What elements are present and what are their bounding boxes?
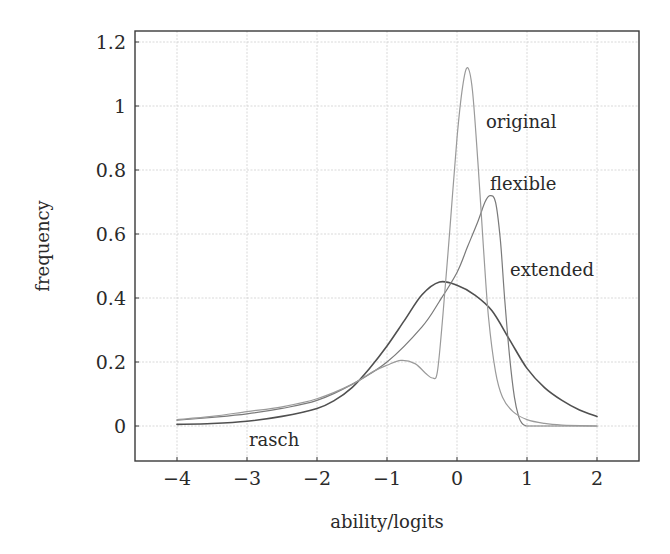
x-axis-label: ability/logits — [330, 511, 443, 532]
label-original: original — [486, 111, 557, 132]
x-tick-label: 0 — [451, 467, 463, 489]
x-tick-label: 2 — [591, 467, 603, 489]
x-tick-label: −4 — [163, 467, 191, 489]
label-flexible: flexible — [490, 173, 557, 194]
line-chart: −4−3−2−101200.20.40.60.811.2 original fl… — [0, 0, 670, 554]
x-tick-label: −1 — [373, 467, 401, 489]
y-axis-label: frequency — [32, 199, 53, 291]
y-tick-label: 0 — [114, 415, 126, 437]
y-tick-label: 1.2 — [96, 31, 126, 53]
y-tick-label: 0.4 — [96, 287, 126, 309]
curve-flexible — [177, 196, 597, 426]
y-tick-label: 0.8 — [96, 159, 126, 181]
label-extended: extended — [510, 259, 594, 280]
x-tick-label: −2 — [303, 467, 331, 489]
x-tick-label: −3 — [233, 467, 261, 489]
grid-lines — [135, 31, 639, 461]
y-tick-label: 1 — [114, 95, 126, 117]
y-tick-label: 0.6 — [96, 223, 126, 245]
x-tick-label: 1 — [521, 467, 533, 489]
label-rasch: rasch — [249, 429, 300, 450]
y-tick-label: 0.2 — [96, 351, 126, 373]
